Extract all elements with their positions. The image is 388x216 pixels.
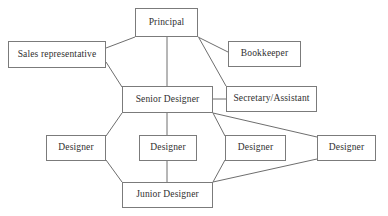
org-chart-diagram: PrincipalSales representativeBookkeeperS… bbox=[0, 0, 388, 216]
connector-designer4-to-junior bbox=[213, 159, 317, 182]
node-designer4[interactable]: Designer bbox=[317, 135, 376, 161]
node-designer2[interactable]: Designer bbox=[139, 135, 197, 161]
connector-senior-to-designer4 bbox=[213, 113, 317, 137]
node-label-sales: Sales representative bbox=[18, 50, 97, 60]
node-label-bookkeeper: Bookkeeper bbox=[241, 49, 288, 59]
node-designer3[interactable]: Designer bbox=[225, 135, 286, 161]
connector-principal-to-secretary bbox=[199, 38, 226, 86]
node-secretary[interactable]: Secretary/Assistant bbox=[226, 86, 317, 112]
node-label-principal: Principal bbox=[149, 18, 185, 28]
node-bookkeeper[interactable]: Bookkeeper bbox=[228, 41, 301, 67]
connector-sales-to-senior bbox=[106, 62, 122, 87]
node-sales[interactable]: Sales representative bbox=[8, 41, 106, 68]
connector-senior-to-designer1 bbox=[106, 113, 122, 136]
node-label-designer2: Designer bbox=[150, 143, 186, 153]
node-label-designer3: Designer bbox=[238, 143, 274, 153]
connector-designer1-to-junior bbox=[106, 160, 122, 182]
node-label-designer4: Designer bbox=[329, 143, 365, 153]
node-label-senior: Senior Designer bbox=[136, 95, 200, 105]
node-label-secretary: Secretary/Assistant bbox=[233, 94, 309, 104]
connector-principal-to-sales bbox=[106, 37, 135, 48]
node-junior[interactable]: Junior Designer bbox=[122, 182, 213, 208]
node-principal[interactable]: Principal bbox=[135, 8, 198, 37]
node-label-designer1: Designer bbox=[58, 143, 94, 153]
node-senior[interactable]: Senior Designer bbox=[122, 86, 213, 113]
connector-senior-to-designer3 bbox=[213, 113, 225, 136]
node-label-junior: Junior Designer bbox=[136, 190, 199, 200]
node-designer1[interactable]: Designer bbox=[46, 135, 106, 161]
connector-designer3-to-junior bbox=[213, 160, 225, 182]
